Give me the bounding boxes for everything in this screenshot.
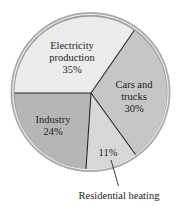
label-electricity-line2: production bbox=[49, 52, 95, 63]
label-electricity-value: 35% bbox=[62, 64, 82, 75]
label-residential-callout: Residential heating bbox=[79, 190, 161, 201]
label-cars-value: 30% bbox=[124, 103, 144, 114]
label-residential-value: 11% bbox=[99, 147, 118, 158]
label-cars-line2: trucks bbox=[121, 91, 147, 102]
label-industry-line1: Industry bbox=[36, 114, 72, 125]
label-industry-value: 24% bbox=[43, 126, 63, 137]
label-cars-line1: Cars and bbox=[115, 79, 153, 90]
label-electricity-line1: Electricity bbox=[50, 40, 94, 51]
pie-chart: Electricity production 35% Cars and truc… bbox=[0, 0, 181, 205]
pie-chart-svg: Electricity production 35% Cars and truc… bbox=[0, 0, 181, 205]
